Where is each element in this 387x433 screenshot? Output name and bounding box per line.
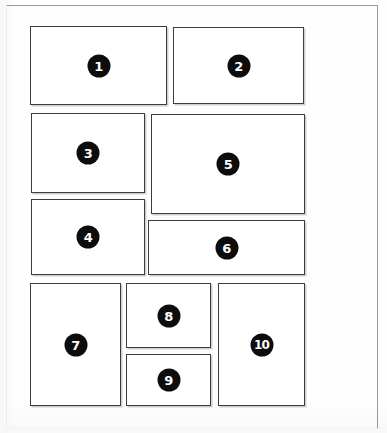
panel-1[interactable]: 1 bbox=[30, 26, 167, 105]
panel-5[interactable]: 5 bbox=[151, 114, 305, 214]
panel-number-badge-7: 7 bbox=[64, 333, 87, 356]
panel-number-badge-8: 8 bbox=[157, 304, 180, 327]
panel-2[interactable]: 2 bbox=[173, 27, 304, 104]
panel-10[interactable]: 10 bbox=[218, 283, 305, 406]
panel-6[interactable]: 6 bbox=[148, 220, 305, 275]
panel-7[interactable]: 7 bbox=[30, 283, 121, 406]
panel-number-badge-3: 3 bbox=[77, 142, 100, 165]
panel-3[interactable]: 3 bbox=[31, 113, 145, 193]
panel-number-badge-2: 2 bbox=[227, 54, 250, 77]
panel-8[interactable]: 8 bbox=[126, 283, 211, 348]
panel-number-badge-4: 4 bbox=[77, 226, 100, 249]
panel-number-badge-10: 10 bbox=[250, 333, 273, 356]
diagram-canvas: 12345678910 bbox=[0, 0, 387, 433]
panel-9[interactable]: 9 bbox=[126, 354, 211, 406]
panel-number-badge-9: 9 bbox=[157, 369, 180, 392]
panel-number-badge-6: 6 bbox=[215, 236, 238, 259]
panel-number-badge-1: 1 bbox=[87, 54, 110, 77]
panel-4[interactable]: 4 bbox=[31, 199, 145, 275]
panel-number-badge-5: 5 bbox=[217, 153, 240, 176]
